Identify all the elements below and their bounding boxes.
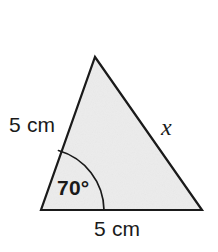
label-angle-70-degrees: 70° <box>57 177 89 198</box>
label-side-left: 5 cm <box>9 114 55 135</box>
label-side-bottom: 5 cm <box>94 218 140 239</box>
label-side-right-unknown-x: x <box>161 115 172 139</box>
geometry-figure: 5 cm 5 cm 70° x <box>0 0 218 252</box>
